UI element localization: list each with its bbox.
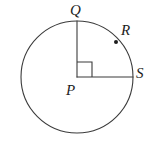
geometry-figure: Q R S P xyxy=(0,0,156,146)
point-label-s: S xyxy=(136,66,144,81)
point-label-q: Q xyxy=(70,3,81,18)
right-angle-marker xyxy=(77,62,92,77)
point-label-p: P xyxy=(66,83,75,98)
circle-diagram-svg xyxy=(0,0,156,146)
point-dot-r xyxy=(114,40,118,44)
point-label-r: R xyxy=(121,23,130,38)
